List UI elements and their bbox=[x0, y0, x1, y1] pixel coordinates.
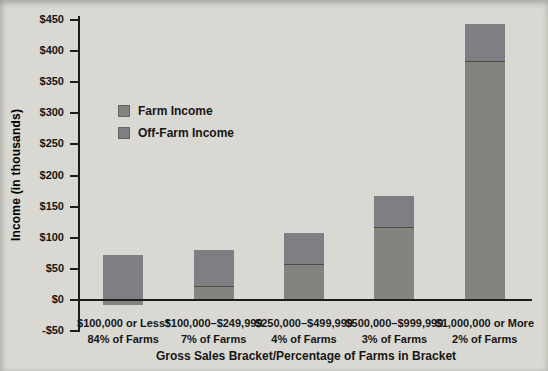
y-axis-tick-label: $400 bbox=[16, 44, 64, 56]
y-axis-tick-label: $350 bbox=[16, 75, 64, 87]
y-axis-tick bbox=[70, 50, 78, 52]
bar-segment-off-farm-income bbox=[103, 255, 143, 300]
bar-segment-off-farm-income bbox=[194, 250, 234, 286]
y-axis-tick bbox=[70, 19, 78, 21]
y-axis-tick-label: $0 bbox=[16, 293, 64, 305]
x-category-bracket: $500,000–$999,999 bbox=[343, 315, 445, 331]
bar-segment-farm-income bbox=[194, 286, 234, 300]
bar-segment-farm-income bbox=[284, 264, 324, 300]
y-axis-tick bbox=[70, 143, 78, 145]
x-category-percent: 4% of Farms bbox=[253, 331, 355, 347]
bar-segment-divider bbox=[284, 264, 324, 265]
legend-item: Farm Income bbox=[118, 104, 234, 118]
y-axis-tick-label: $200 bbox=[16, 169, 64, 181]
y-axis-line bbox=[78, 16, 80, 332]
legend-swatch-icon bbox=[118, 105, 130, 117]
y-axis-tick bbox=[70, 299, 78, 301]
x-category-bracket: $250,000–$499,999 bbox=[253, 315, 355, 331]
x-category-label: $100,000 or Less*84% of Farms bbox=[72, 315, 174, 347]
y-axis-tick-label: $450 bbox=[16, 13, 64, 25]
y-axis-tick-label: $100 bbox=[16, 231, 64, 243]
bar-segment-divider bbox=[465, 61, 505, 62]
plot-area: $450$400$350$300$250$200$150$100$50$0-$5… bbox=[78, 20, 530, 331]
y-axis-tick bbox=[70, 81, 78, 83]
bar-segment-divider bbox=[194, 286, 234, 287]
y-axis-tick bbox=[70, 268, 78, 270]
y-axis-tick bbox=[70, 112, 78, 114]
y-axis-tick-label: $300 bbox=[16, 106, 64, 118]
bar-segment-farm-income bbox=[374, 227, 414, 300]
x-category-label: $1,000,000 or More2% of Farms bbox=[434, 315, 536, 347]
y-axis-tick bbox=[70, 206, 78, 208]
y-axis-tick bbox=[70, 330, 78, 332]
x-category-percent: 2% of Farms bbox=[434, 331, 536, 347]
bar-segment-off-farm-income bbox=[284, 233, 324, 264]
y-axis-tick-label: $150 bbox=[16, 200, 64, 212]
bar-segment-off-farm-income bbox=[374, 196, 414, 227]
x-category-percent: 7% of Farms bbox=[162, 331, 264, 347]
bar-segment-off-farm-income bbox=[465, 24, 505, 61]
bar-segment-farm-income bbox=[465, 61, 505, 300]
y-axis-tick-label: $50 bbox=[16, 262, 64, 274]
y-axis-tick bbox=[70, 175, 78, 177]
legend-swatch-icon bbox=[118, 127, 130, 139]
x-axis-title: Gross Sales Bracket/Percentage of Farms … bbox=[80, 349, 532, 363]
chart-legend: Farm IncomeOff-Farm Income bbox=[118, 104, 234, 148]
x-category-bracket: $1,000,000 or More bbox=[434, 315, 536, 331]
x-category-label: $100,000–$249,9997% of Farms bbox=[162, 315, 264, 347]
x-category-label: $250,000–$499,9994% of Farms bbox=[253, 315, 355, 347]
x-category-bracket: $100,000–$249,999 bbox=[162, 315, 264, 331]
y-axis-tick bbox=[70, 237, 78, 239]
x-category-bracket: $100,000 or Less* bbox=[72, 315, 174, 331]
bar-segment-divider bbox=[374, 227, 414, 228]
legend-label: Off-Farm Income bbox=[138, 126, 234, 140]
legend-item: Off-Farm Income bbox=[118, 126, 234, 140]
x-category-label: $500,000–$999,9993% of Farms bbox=[343, 315, 445, 347]
x-axis-line bbox=[78, 299, 532, 301]
y-axis-tick-label: $250 bbox=[16, 137, 64, 149]
legend-label: Farm Income bbox=[138, 104, 213, 118]
y-axis-tick-label: -$50 bbox=[16, 324, 64, 336]
x-category-percent: 84% of Farms bbox=[72, 331, 174, 347]
x-category-percent: 3% of Farms bbox=[343, 331, 445, 347]
farm-income-chart: Income (in thousands) $450$400$350$300$2… bbox=[0, 0, 548, 371]
